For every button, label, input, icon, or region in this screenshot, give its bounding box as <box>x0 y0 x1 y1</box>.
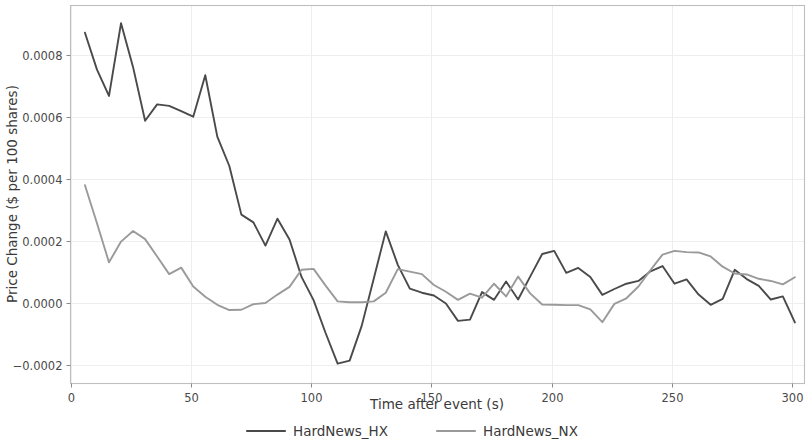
y-tick-label: 0.0006 <box>22 111 62 125</box>
y-axis-title: Price Change ($ per 100 shares) <box>4 85 20 303</box>
x-tick-label: 250 <box>662 391 684 405</box>
y-tick-label: 0.0002 <box>22 235 62 249</box>
x-tick-label: 0 <box>68 391 75 405</box>
legend-label: HardNews_NX <box>483 423 578 439</box>
y-tick-label: −0.0002 <box>13 359 63 373</box>
y-tick-label: 0.0008 <box>22 49 62 63</box>
x-axis-title: Time after event (s) <box>369 396 504 412</box>
line-chart: 050100150200250300 −0.00020.00000.00020.… <box>0 0 812 442</box>
x-tick-label: 200 <box>542 391 564 405</box>
y-tick-label: 0.0004 <box>22 173 62 187</box>
legend-label: HardNews_HX <box>293 423 388 439</box>
y-tick-label: 0.0000 <box>22 297 62 311</box>
x-tick-label: 300 <box>782 391 804 405</box>
chart-figure: 050100150200250300 −0.00020.00000.00020.… <box>0 0 812 442</box>
x-tick-label: 50 <box>184 391 199 405</box>
x-tick-label: 100 <box>301 391 323 405</box>
figure-background <box>0 0 812 442</box>
